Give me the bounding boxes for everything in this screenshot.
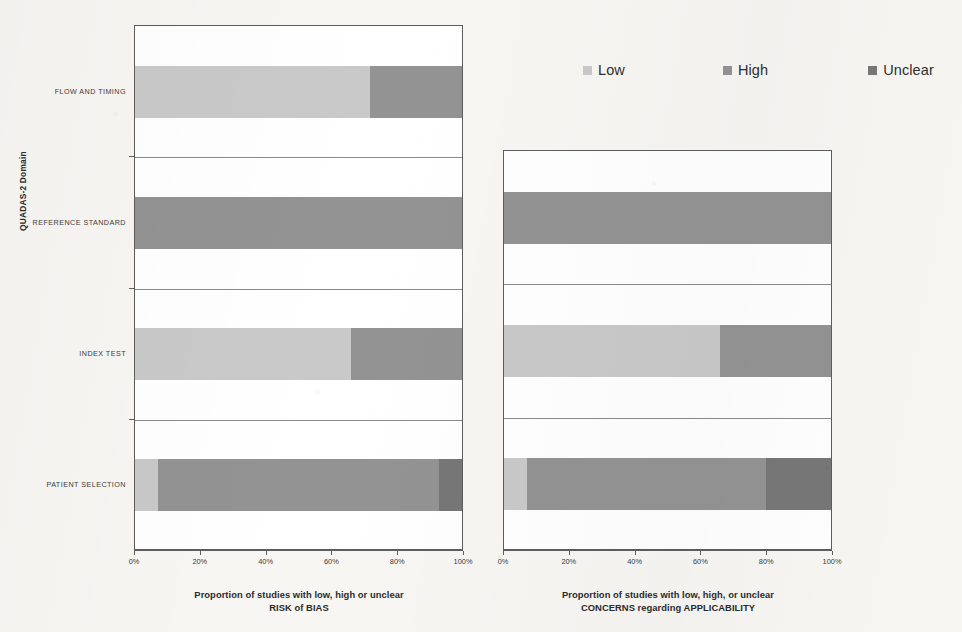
x-axis-tick bbox=[700, 551, 701, 555]
x-axis-tick bbox=[569, 551, 570, 555]
bar-segment-low bbox=[504, 325, 720, 377]
y-axis-tick bbox=[129, 288, 134, 289]
y-axis-line bbox=[134, 25, 135, 550]
x-axis-title-applicability: Proportion of studies with low, high, or… bbox=[498, 588, 838, 614]
legend-swatch-icon-unclear bbox=[868, 66, 877, 75]
bar-patient-selection bbox=[504, 458, 831, 510]
category-divider bbox=[135, 420, 462, 421]
x-axis-tick-label: 100% bbox=[823, 557, 842, 566]
bar-segment-low bbox=[135, 459, 158, 511]
plot-inner-risk-of-bias bbox=[135, 26, 462, 549]
plot-area-risk-of-bias bbox=[134, 25, 463, 550]
x-axis-line bbox=[134, 550, 463, 551]
bar-index-test bbox=[504, 325, 831, 377]
bar-segment-high bbox=[351, 328, 462, 380]
legend-swatch-icon-high bbox=[723, 66, 732, 75]
bar-reference-standard bbox=[504, 192, 831, 244]
x-axis-tick-label: 40% bbox=[258, 557, 273, 566]
x-axis-tick-label: 0% bbox=[129, 557, 140, 566]
y-axis-tick bbox=[129, 419, 134, 420]
bar-segment-high bbox=[720, 325, 831, 377]
legend-swatch-icon-low bbox=[583, 66, 592, 75]
x-axis-tick bbox=[766, 551, 767, 555]
bar-segment-high bbox=[158, 459, 439, 511]
bar-segment-low bbox=[504, 458, 527, 510]
legend-label-low: Low bbox=[598, 62, 625, 78]
x-axis-tick bbox=[397, 551, 398, 555]
legend-item-high: High bbox=[723, 62, 768, 78]
bar-segment-high bbox=[370, 66, 462, 118]
x-axis-tick-label: 80% bbox=[759, 557, 774, 566]
legend-item-unclear: Unclear bbox=[868, 62, 934, 78]
x-axis-tick-label: 20% bbox=[561, 557, 576, 566]
y-axis-label-flow-and-timing: FLOW AND TIMING bbox=[0, 86, 126, 95]
legend-label-high: High bbox=[738, 62, 768, 78]
x-axis-tick bbox=[134, 551, 135, 555]
bar-segment-low bbox=[135, 66, 370, 118]
bar-segment-unclear bbox=[439, 459, 462, 511]
x-axis-tick-label: 60% bbox=[693, 557, 708, 566]
x-axis-tick-label: 0% bbox=[498, 557, 509, 566]
y-axis-label-patient-selection: PATIENT SELECTION bbox=[0, 480, 126, 489]
y-axis-tick bbox=[129, 156, 134, 157]
x-axis-title-line1: Proportion of studies with low, high or … bbox=[129, 588, 469, 601]
bar-segment-low bbox=[135, 328, 351, 380]
x-axis-tick-label: 60% bbox=[324, 557, 339, 566]
chart-risk-of-bias: QUADAS-2 Domain PATIENT SELECTIONINDEX T… bbox=[0, 0, 481, 632]
x-axis-tick-label: 20% bbox=[192, 557, 207, 566]
bar-index-test bbox=[135, 328, 462, 380]
x-axis-tick bbox=[266, 551, 267, 555]
bar-reference-standard bbox=[135, 197, 462, 249]
x-axis-tick bbox=[832, 551, 833, 555]
bar-segment-high bbox=[527, 458, 766, 510]
y-axis-line bbox=[503, 150, 504, 550]
x-axis-line bbox=[503, 550, 832, 551]
category-divider bbox=[135, 157, 462, 158]
x-axis-title-risk-of-bias: Proportion of studies with low, high or … bbox=[129, 588, 469, 614]
legend-item-low: Low bbox=[583, 62, 625, 78]
plot-area-applicability bbox=[503, 150, 832, 550]
legend-label-unclear: Unclear bbox=[883, 62, 934, 78]
x-axis-tick-label: 40% bbox=[627, 557, 642, 566]
x-axis-tick bbox=[463, 551, 464, 555]
x-axis-tick bbox=[635, 551, 636, 555]
y-axis-label-reference-standard: REFERENCE STANDARD bbox=[0, 217, 126, 226]
bar-segment-high bbox=[135, 197, 462, 249]
x-axis-tick bbox=[331, 551, 332, 555]
bar-segment-high bbox=[504, 192, 831, 244]
bar-flow-and-timing bbox=[135, 66, 462, 118]
x-axis-title-line2: CONCERNS regarding APPLICABILITY bbox=[498, 601, 838, 614]
category-divider bbox=[504, 418, 831, 419]
x-axis-title-line1: Proportion of studies with low, high, or… bbox=[498, 588, 838, 601]
y-axis-label-index-test: INDEX TEST bbox=[0, 349, 126, 358]
x-axis-tick-label: 100% bbox=[454, 557, 473, 566]
plot-inner-applicability bbox=[504, 151, 831, 549]
x-axis-tick-label: 80% bbox=[390, 557, 405, 566]
category-divider bbox=[504, 284, 831, 285]
bar-patient-selection bbox=[135, 459, 462, 511]
x-axis-tick bbox=[200, 551, 201, 555]
x-axis-tick bbox=[503, 551, 504, 555]
category-divider bbox=[135, 289, 462, 290]
x-axis-title-line2: RISK of BIAS bbox=[129, 601, 469, 614]
bar-segment-unclear bbox=[766, 458, 831, 510]
chart-applicability: 0%20%40%60%80%100% Proportion of studies… bbox=[481, 0, 962, 632]
chart-legend: Low High Unclear bbox=[575, 58, 955, 82]
